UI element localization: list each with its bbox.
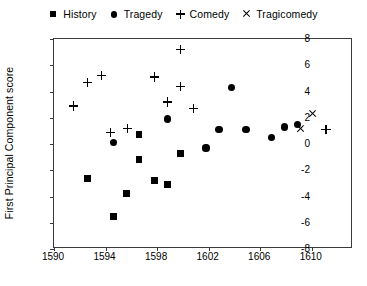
plus-marker-icon — [69, 101, 78, 110]
square-marker-icon — [49, 10, 58, 19]
legend-item-history: History — [49, 9, 96, 20]
cross-marker-icon — [296, 124, 305, 133]
circle-marker-icon — [281, 123, 288, 130]
square-marker-icon — [151, 177, 158, 184]
plus-marker-icon — [83, 78, 92, 87]
y-tick-label: -6 — [282, 218, 310, 228]
x-tick-label: 1590 — [33, 252, 73, 262]
legend-item-tragedy: Tragedy — [110, 9, 163, 20]
y-tick-label: -4 — [282, 192, 310, 202]
x-tick-label: 1602 — [188, 252, 228, 262]
legend-label: Comedy — [190, 9, 230, 20]
plus-marker-icon — [176, 82, 185, 91]
cross-marker-icon — [242, 10, 251, 19]
plus-marker-icon — [163, 97, 172, 106]
y-tick-label: 8 — [282, 34, 310, 44]
legend-label: Tragicomedy — [256, 9, 317, 20]
y-tick — [50, 39, 54, 40]
circle-marker-icon — [268, 134, 275, 141]
chart-container: HistoryTragedyComedyTragicomedy First Pr… — [0, 0, 367, 286]
square-marker-icon — [110, 213, 117, 220]
circle-marker-icon — [228, 84, 235, 91]
plus-marker-icon — [106, 128, 115, 137]
chart-legend: HistoryTragedyComedyTragicomedy — [0, 4, 367, 24]
y-tick — [50, 197, 54, 198]
x-tick-label: 1598 — [136, 252, 176, 262]
y-tick-label: 2 — [282, 113, 310, 123]
square-marker-icon — [136, 156, 143, 163]
plus-marker-icon — [189, 104, 198, 113]
x-tick-label: 1610 — [291, 252, 331, 262]
y-tick-label: -2 — [282, 165, 310, 175]
square-marker-icon — [123, 190, 130, 197]
y-tick — [50, 118, 54, 119]
y-tick — [50, 170, 54, 171]
legend-item-comedy: Comedy — [176, 9, 230, 20]
y-tick-label: 4 — [282, 87, 310, 97]
circle-marker-icon — [215, 126, 222, 133]
y-tick — [50, 65, 54, 66]
legend-item-tragicomedy: Tragicomedy — [242, 9, 317, 20]
square-marker-icon — [84, 175, 91, 182]
y-tick — [50, 144, 54, 145]
circle-marker-icon — [164, 115, 171, 122]
plus-marker-icon — [150, 72, 159, 81]
y-tick-label: 6 — [282, 60, 310, 70]
circle-marker-icon — [110, 139, 117, 146]
circle-marker-icon — [242, 126, 249, 133]
plus-marker-icon — [123, 124, 132, 133]
plus-marker-icon — [176, 45, 185, 54]
y-tick — [50, 223, 54, 224]
x-tick-label: 1594 — [85, 252, 125, 262]
legend-label: Tragedy — [124, 9, 163, 20]
y-tick-label: 0 — [282, 139, 310, 149]
circle-marker-icon — [110, 10, 119, 19]
circle-marker-icon — [202, 144, 209, 151]
y-axis-title: First Principal Component score — [2, 38, 16, 248]
square-marker-icon — [136, 131, 143, 138]
plus-marker-icon — [176, 10, 185, 19]
square-marker-icon — [177, 150, 184, 157]
y-tick — [50, 92, 54, 93]
plus-marker-icon — [97, 71, 106, 80]
square-marker-icon — [164, 181, 171, 188]
plus-marker-icon — [321, 125, 330, 134]
legend-label: History — [63, 9, 96, 20]
x-tick-label: 1606 — [239, 252, 279, 262]
